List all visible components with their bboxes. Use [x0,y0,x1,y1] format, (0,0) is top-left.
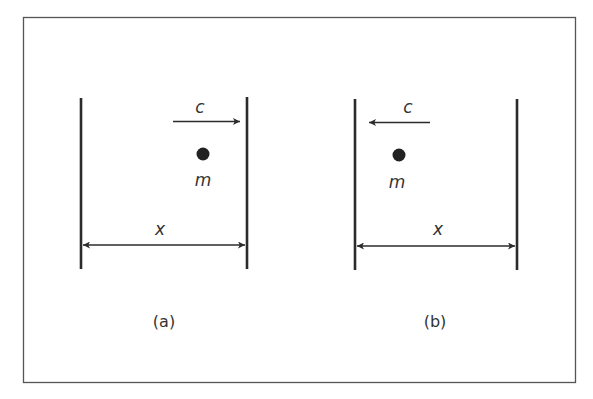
distance-label: x [432,219,444,239]
velocity-label: c [403,97,413,117]
panel-caption: (b) [424,312,447,331]
panel-caption: (a) [153,312,175,331]
mass-label: m [195,170,212,190]
mass-dot [197,148,210,161]
mass-label: m [389,172,406,192]
figure-frame [24,18,576,383]
mass-dot [393,149,406,162]
diagram-canvas: c m x (a) c m x (b) [0,0,593,399]
velocity-label: c [195,97,205,117]
panel-a: c m x (a) [81,97,247,331]
distance-label: x [154,219,166,239]
panel-b: c m x (b) [355,97,517,331]
